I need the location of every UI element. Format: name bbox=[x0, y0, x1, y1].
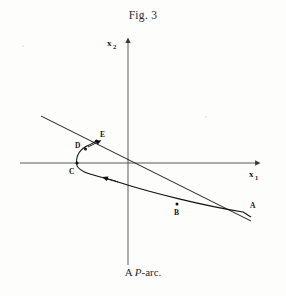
point-dot-D bbox=[84, 148, 87, 151]
arc-direction-arrow bbox=[105, 178, 118, 182]
point-dot-B bbox=[176, 203, 179, 206]
point-dot-E bbox=[95, 139, 98, 142]
point-dot-C bbox=[75, 161, 78, 164]
point-label-C: C bbox=[69, 167, 74, 176]
figure-caption: A P-arc. bbox=[0, 266, 286, 278]
point-marker-D: D bbox=[75, 141, 87, 151]
scan-speck bbox=[22, 45, 24, 47]
figure-plot: x 2 x 1 A B C D E bbox=[0, 0, 286, 296]
y-axis-label-base: x bbox=[107, 38, 112, 48]
x-axis-label-base: x bbox=[249, 169, 254, 179]
point-marker-C: C bbox=[69, 161, 79, 176]
caption-prefix: A bbox=[125, 266, 135, 278]
point-label-B: B bbox=[174, 208, 179, 217]
point-label-E: E bbox=[100, 130, 105, 139]
point-label-D: D bbox=[75, 141, 81, 150]
point-marker-B: B bbox=[174, 203, 179, 218]
figure-root: Fig. 3 x 2 bbox=[0, 0, 286, 296]
y-axis-label-sub: 2 bbox=[113, 43, 116, 50]
point-marker-A: A bbox=[250, 201, 256, 210]
p-arc-curve bbox=[76, 141, 251, 217]
x-axis-label: x 1 bbox=[249, 169, 258, 181]
point-label-A: A bbox=[250, 201, 256, 210]
scan-speck bbox=[205, 116, 207, 118]
x-axis-label-sub: 1 bbox=[255, 174, 258, 181]
caption-suffix: -arc. bbox=[141, 266, 161, 278]
point-marker-E: E bbox=[95, 130, 105, 143]
y-axis-label: x 2 bbox=[107, 38, 116, 50]
